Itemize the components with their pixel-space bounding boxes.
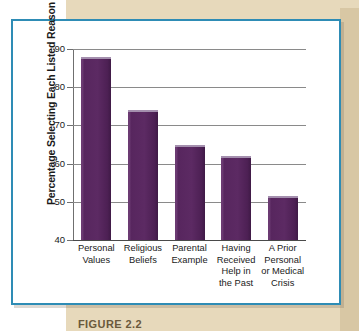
x-label-line: Help in [222, 266, 251, 276]
y-axis-tick-group: 405060708090 [13, 21, 65, 303]
gridline-40 [73, 240, 306, 241]
x-axis-label-1: PersonalValues [73, 243, 120, 266]
y-tick-label-40: 40 [39, 234, 65, 245]
x-label-line: A Prior [269, 243, 297, 253]
x-label-line: Personal [78, 243, 115, 253]
bar-4 [221, 156, 251, 240]
x-label-line: Having [222, 243, 251, 253]
plot-area [73, 49, 306, 240]
x-axis-label-group: PersonalValuesReligiousBeliefsParentalEx… [73, 243, 306, 301]
x-label-line: Crisis [271, 278, 294, 288]
x-label-line: Values [82, 255, 110, 265]
x-label-line: the Past [219, 278, 253, 288]
gridline-90 [73, 49, 306, 50]
y-tick-label-90: 90 [39, 43, 65, 54]
bar-3 [175, 145, 205, 241]
page-tan-shadow [340, 8, 359, 331]
x-axis-label-5: A PriorPersonalor MedicalCrisis [259, 243, 306, 289]
y-tick-label-80: 80 [39, 81, 65, 92]
x-label-line: Beliefs [129, 255, 157, 265]
bar-1 [81, 57, 111, 240]
x-label-line: Personal [264, 255, 301, 265]
x-axis-label-2: ReligiousBeliefs [120, 243, 167, 266]
x-label-line: Religious [124, 243, 162, 253]
x-axis-label-4: HavingReceivedHelp inthe Past [213, 243, 260, 289]
x-label-line: Received [217, 255, 256, 265]
y-tick-label-50: 50 [39, 196, 65, 207]
y-tick-label-70: 70 [39, 119, 65, 130]
x-axis-label-3: ParentalExample [166, 243, 213, 266]
chart-panel: Percentage Selecting Each Listed Reason … [11, 19, 341, 305]
bar-5 [268, 196, 298, 240]
x-label-line: or Medical [261, 266, 304, 276]
figure-caption: FIGURE 2.2 [78, 318, 142, 331]
x-label-line: Parental [172, 243, 207, 253]
x-label-line: Example [171, 255, 207, 265]
y-tick-label-60: 60 [39, 158, 65, 169]
plot-wrapper: 405060708090 PersonalValuesReligiousBeli… [13, 21, 339, 303]
bar-2 [128, 110, 158, 240]
